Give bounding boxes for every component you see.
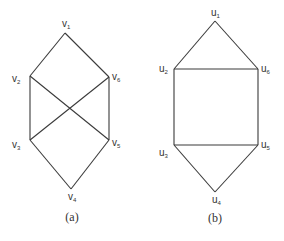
- caption-a: (a): [65, 210, 78, 224]
- vertex-label-u6: u6: [261, 63, 271, 75]
- graph-a: v1v2v6v3v5v4: [12, 18, 121, 203]
- edge-u5-u4: [215, 145, 258, 192]
- graph-b: u1u2u6u3u5u4: [159, 7, 271, 206]
- vertex-label-u2: u2: [159, 63, 169, 75]
- edge-v3-v4: [30, 140, 71, 189]
- vertex-label-u5: u5: [261, 139, 271, 151]
- edge-v1-v2: [30, 33, 65, 76]
- caption-b: (b): [208, 211, 222, 225]
- vertex-label-v5: v5: [112, 137, 121, 149]
- vertex-label-v3: v3: [12, 139, 21, 151]
- vertex-label-v1: v1: [62, 18, 71, 30]
- vertex-label-u1: u1: [211, 7, 221, 19]
- vertex-label-v6: v6: [112, 71, 121, 83]
- edge-u3-u4: [174, 145, 215, 192]
- edge-v5-v4: [71, 140, 109, 189]
- edge-u1-u2: [174, 21, 215, 69]
- vertex-label-v4: v4: [68, 191, 77, 203]
- edge-u1-u6: [215, 21, 258, 69]
- edge-v1-v6: [65, 33, 109, 77]
- vertex-label-v2: v2: [12, 73, 21, 85]
- vertex-label-u4: u4: [212, 194, 222, 206]
- graph-figure: v1v2v6v3v5v4 u1u2u6u3u5u4 (a) (b): [0, 0, 284, 241]
- vertex-label-u3: u3: [159, 147, 169, 159]
